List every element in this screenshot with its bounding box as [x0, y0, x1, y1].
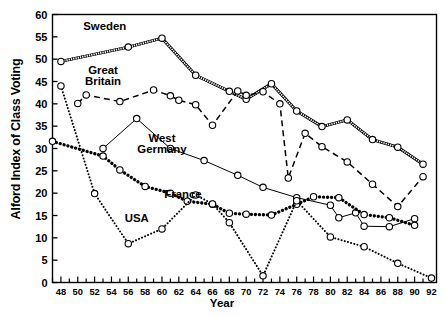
data-point-marker — [209, 201, 215, 207]
data-point-marker — [268, 212, 274, 218]
x-tick-label: 72 — [258, 287, 268, 297]
data-point-marker — [235, 172, 241, 178]
x-tick-label: 58 — [140, 287, 150, 297]
data-point-marker — [310, 194, 316, 200]
data-point-marker — [83, 92, 89, 98]
series-label-usa: USA — [125, 212, 149, 224]
data-point-marker — [361, 211, 367, 217]
data-point-marker — [327, 202, 333, 208]
data-point-marker — [243, 92, 249, 98]
data-point-marker — [58, 83, 64, 89]
data-point-marker — [75, 100, 81, 106]
data-point-marker — [117, 167, 123, 173]
y-tick-label: 35 — [35, 120, 47, 132]
series-label-great-britain: Britain — [85, 75, 121, 87]
data-point-marker — [100, 153, 106, 159]
data-point-marker — [134, 115, 140, 121]
y-tick-label: 60 — [35, 9, 47, 21]
series-line — [78, 90, 423, 207]
data-point-marker — [420, 173, 426, 179]
x-tick-label: 64 — [190, 287, 201, 297]
data-point-marker — [260, 184, 266, 190]
data-point-marker — [91, 190, 97, 196]
x-tick-label: 48 — [56, 287, 66, 297]
data-point-marker — [176, 97, 182, 103]
data-point-marker — [192, 102, 198, 108]
data-point-marker — [226, 88, 232, 94]
x-tick-label: 70 — [241, 287, 251, 297]
data-point-marker — [319, 123, 325, 129]
x-tick-label: 56 — [123, 287, 133, 297]
y-tick-label: 50 — [35, 53, 47, 65]
x-tick-label: 80 — [325, 287, 335, 297]
x-tick-label: 90 — [409, 287, 419, 297]
data-point-marker — [235, 88, 241, 94]
data-point-marker — [336, 194, 342, 200]
data-point-marker — [150, 87, 156, 93]
x-tick-label: 54 — [106, 287, 117, 297]
data-point-marker — [369, 136, 375, 142]
series-line — [61, 86, 432, 278]
data-point-marker — [167, 93, 173, 99]
data-point-marker — [226, 219, 232, 225]
y-tick-label: 0 — [41, 277, 47, 289]
y-tick-label: 30 — [35, 143, 47, 155]
data-point-marker — [260, 273, 266, 279]
x-tick-label: 50 — [73, 287, 83, 297]
series-sweden — [58, 35, 427, 167]
data-point-marker — [336, 215, 342, 221]
y-tick-label: 55 — [35, 31, 47, 43]
data-point-marker — [100, 145, 106, 151]
y-tick-label: 5 — [41, 254, 47, 266]
y-tick-label: 25 — [35, 165, 47, 177]
x-tick-label: 74 — [275, 287, 286, 297]
data-point-marker — [361, 223, 367, 229]
data-point-marker — [159, 226, 165, 232]
x-tick-label: 86 — [376, 287, 386, 297]
data-point-marker — [159, 35, 165, 41]
y-tick-label: 40 — [35, 98, 47, 110]
y-tick-label: 10 — [35, 232, 47, 244]
data-point-marker — [327, 234, 333, 240]
x-tick-label: 92 — [426, 287, 436, 297]
x-tick-label: 52 — [89, 287, 99, 297]
data-point-marker — [209, 122, 215, 128]
data-point-marker — [411, 222, 417, 228]
x-tick-label: 66 — [207, 287, 217, 297]
x-tick-label: 84 — [359, 287, 370, 297]
data-point-marker — [243, 211, 249, 217]
series-great-britain — [75, 87, 427, 210]
data-point-marker — [369, 181, 375, 187]
data-point-marker — [49, 138, 55, 144]
x-tick-label: 60 — [157, 287, 167, 297]
chart-figure: Alford Index of Class Voting Year 051015… — [0, 0, 444, 316]
data-point-marker — [395, 203, 401, 209]
data-point-marker — [294, 198, 300, 204]
series-label-sweden: Sweden — [83, 20, 126, 32]
data-point-marker — [285, 175, 291, 181]
data-point-marker — [125, 240, 131, 246]
x-tick-label: 68 — [224, 287, 234, 297]
data-point-marker — [294, 108, 300, 114]
data-point-marker — [260, 89, 266, 95]
x-tick-label: 78 — [308, 287, 318, 297]
data-point-marker — [125, 44, 131, 50]
data-point-marker — [386, 215, 392, 221]
data-point-marker — [411, 215, 417, 221]
data-point-marker — [428, 275, 434, 281]
x-tick-label: 76 — [292, 287, 302, 297]
data-point-marker — [395, 144, 401, 150]
x-tick-label: 88 — [393, 287, 403, 297]
data-point-marker — [319, 144, 325, 150]
series-label-france: France — [164, 188, 201, 200]
data-point-marker — [268, 81, 274, 87]
data-point-marker — [344, 159, 350, 165]
series-label-west-germany: Germany — [137, 143, 187, 155]
x-tick-label: 82 — [342, 287, 352, 297]
data-point-marker — [142, 183, 148, 189]
y-tick-label: 45 — [35, 76, 47, 88]
data-point-marker — [192, 72, 198, 78]
data-point-marker — [277, 101, 283, 107]
data-point-marker — [117, 98, 123, 104]
plot-frame — [53, 15, 437, 283]
